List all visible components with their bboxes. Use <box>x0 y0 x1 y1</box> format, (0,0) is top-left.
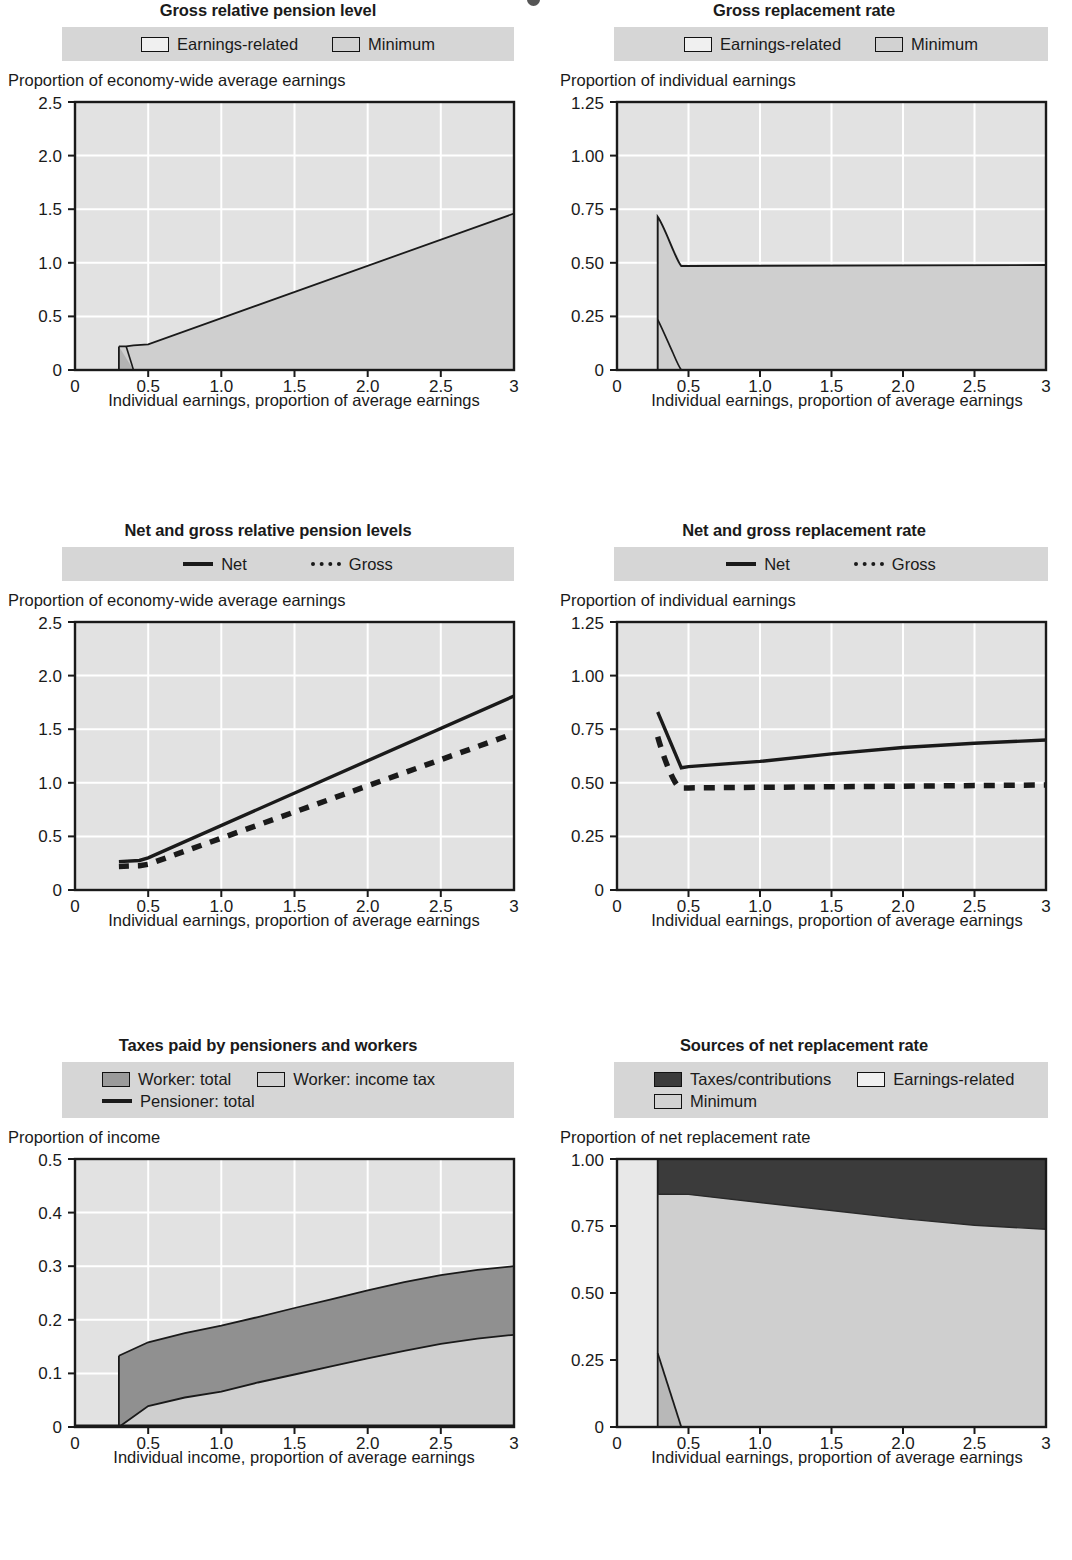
legend-label: Gross <box>349 553 393 575</box>
plot-area: 0 0.5 1.0 1.5 2.0 2.5 0 0.5 <box>0 92 536 410</box>
plot-area: 0 0.5 1.0 1.5 2.0 2.5 0 0.5 1 <box>0 612 536 930</box>
legend-label: Gross <box>892 553 936 575</box>
x-tick-label: 0 <box>70 897 79 912</box>
panel-title: Sources of net replacement rate <box>536 1035 1072 1055</box>
legend-item-worker-total: Worker: total <box>102 1068 231 1090</box>
y-axis-title: Proportion of individual earnings <box>560 590 1072 610</box>
y-tick-label: 0 <box>53 881 62 900</box>
swatch-box-icon <box>654 1094 682 1109</box>
x-axis-title: Individual earnings, proportion of avera… <box>536 1447 1072 1467</box>
x-axis-title: Individual earnings, proportion of avera… <box>0 910 536 930</box>
legend-item-taxes-contributions: Taxes/contributions <box>654 1068 831 1090</box>
y-tick-label: 0.4 <box>38 1204 62 1223</box>
swatch-box-icon <box>654 1072 682 1087</box>
legend-label: Pensioner: total <box>140 1090 255 1112</box>
swatch-box-icon <box>332 37 360 52</box>
legend-item-gross: Gross <box>311 553 393 575</box>
y-tick-label: 1.00 <box>571 667 604 686</box>
legend-label: Earnings-related <box>720 33 841 55</box>
y-tick-label: 0.75 <box>571 1217 604 1236</box>
panel-gross-replacement-rate: Gross replacement rate Earnings-related … <box>536 0 1072 520</box>
y-tick-label: 0.5 <box>38 1151 62 1170</box>
plot-area: 0 0.25 0.50 0.75 1.00 1.25 0 0.5 <box>536 612 1072 930</box>
x-tick-label: 0 <box>612 377 621 392</box>
y-tick-label: 0 <box>53 1418 62 1437</box>
y-tick-label: 0.5 <box>38 827 62 846</box>
legend-label: Earnings-related <box>177 33 298 55</box>
y-tick-label: 0.2 <box>38 1311 62 1330</box>
x-tick-label: 3 <box>509 377 518 392</box>
swatch-box-icon <box>257 1072 285 1087</box>
legend-net-and-gross-replacement-rate: Net Gross <box>614 547 1048 581</box>
y-axis-title: Proportion of economy-wide average earni… <box>8 70 536 90</box>
y-axis-title: Proportion of individual earnings <box>560 70 1072 90</box>
y-tick-label: 1.0 <box>38 254 62 273</box>
chart-svg: 0 0.25 0.50 0.75 1.00 1.25 0 0.5 <box>536 612 1072 912</box>
x-tick-label: 3 <box>1041 897 1050 912</box>
panel-sources-of-net-replacement-rate: Sources of net replacement rate Taxes/co… <box>536 1035 1072 1560</box>
y-tick-label: 0 <box>595 1418 604 1437</box>
legend-label: Minimum <box>368 33 435 55</box>
legend-label: Minimum <box>911 33 978 55</box>
y-tick-label: 1.5 <box>38 720 62 739</box>
plot-area: 0 0.1 0.2 0.3 0.4 0.5 0 0.5 1 <box>0 1149 536 1467</box>
x-tick-label: 0 <box>70 377 79 392</box>
y-tick-label: 0.75 <box>571 720 604 739</box>
legend-label: Minimum <box>690 1090 757 1112</box>
dashed-line-icon <box>311 562 341 566</box>
panel-gross-relative-pension-level: Gross relative pension level Earnings-re… <box>0 0 536 520</box>
y-tick-label: 2.5 <box>38 614 62 633</box>
legend-net-and-gross-relative-pension-levels: Net Gross <box>62 547 514 581</box>
x-tick-label: 0 <box>70 1434 79 1449</box>
y-tick-label: 1.00 <box>571 147 604 166</box>
y-tick-label: 0.50 <box>571 1284 604 1303</box>
legend-label: Net <box>764 553 790 575</box>
chart-svg: 0 0.5 1.0 1.5 2.0 2.5 0 0.5 <box>0 92 536 392</box>
y-tick-label: 1.5 <box>38 200 62 219</box>
solid-line-icon <box>183 562 213 566</box>
y-tick-label: 0 <box>53 361 62 380</box>
chart-svg: 0 0.5 1.0 1.5 2.0 2.5 0 0.5 1 <box>0 612 536 912</box>
y-tick-label: 0.1 <box>38 1364 62 1383</box>
chart-svg: 0 0.1 0.2 0.3 0.4 0.5 0 0.5 1 <box>0 1149 536 1449</box>
y-axis-title: Proportion of net replacement rate <box>560 1127 1072 1147</box>
legend-item-minimum: Minimum <box>332 33 435 55</box>
panel-title: Gross replacement rate <box>536 0 1072 20</box>
y-tick-label: 0 <box>595 881 604 900</box>
legend-taxes-paid: Worker: total Worker: income tax Pension… <box>62 1062 514 1118</box>
y-tick-label: 2.0 <box>38 147 62 166</box>
legend-item-minimum: Minimum <box>654 1090 757 1112</box>
x-tick-label: 3 <box>1041 377 1050 392</box>
legend-item-earnings-related: Earnings-related <box>857 1068 1014 1090</box>
legend-sources-of-net-replacement-rate: Taxes/contributions Earnings-related Min… <box>614 1062 1048 1118</box>
plot-area: 0 0.25 0.50 0.75 1.00 1.25 0 0.5 <box>536 92 1072 410</box>
panel-title: Net and gross replacement rate <box>536 520 1072 540</box>
y-tick-label: 1.0 <box>38 774 62 793</box>
y-tick-label: 1.25 <box>571 94 604 113</box>
panel-title: Net and gross relative pension levels <box>0 520 536 540</box>
legend-label: Worker: income tax <box>293 1068 435 1090</box>
x-axis-title: Individual earnings, proportion of avera… <box>536 910 1072 930</box>
x-tick-label: 0 <box>612 897 621 912</box>
legend-item-pensioner-total: Pensioner: total <box>102 1090 255 1112</box>
y-tick-label: 0.50 <box>571 774 604 793</box>
x-tick-label: 3 <box>509 897 518 912</box>
legend-item-earnings-related: Earnings-related <box>141 33 298 55</box>
x-tick-label: 0 <box>612 1434 621 1449</box>
solid-line-icon <box>102 1099 132 1103</box>
legend-item-minimum: Minimum <box>875 33 978 55</box>
y-tick-label: 0.25 <box>571 1351 604 1370</box>
legend-gross-replacement-rate: Earnings-related Minimum <box>614 27 1048 61</box>
swatch-box-icon <box>141 37 169 52</box>
y-tick-label: 0.75 <box>571 200 604 219</box>
y-axis-title: Proportion of income <box>8 1127 536 1147</box>
y-tick-label: 0.3 <box>38 1257 62 1276</box>
legend-gross-relative-pension-level: Earnings-related Minimum <box>62 27 514 61</box>
x-axis-title: Individual income, proportion of average… <box>0 1447 536 1467</box>
swatch-box-icon <box>857 1072 885 1087</box>
legend-label: Taxes/contributions <box>690 1068 831 1090</box>
legend-label: Earnings-related <box>893 1068 1014 1090</box>
y-tick-label: 0.5 <box>38 307 62 326</box>
y-tick-label: 0 <box>595 361 604 380</box>
chart-svg: 0 0.25 0.50 0.75 1.00 0 0.5 1.0 <box>536 1149 1072 1449</box>
